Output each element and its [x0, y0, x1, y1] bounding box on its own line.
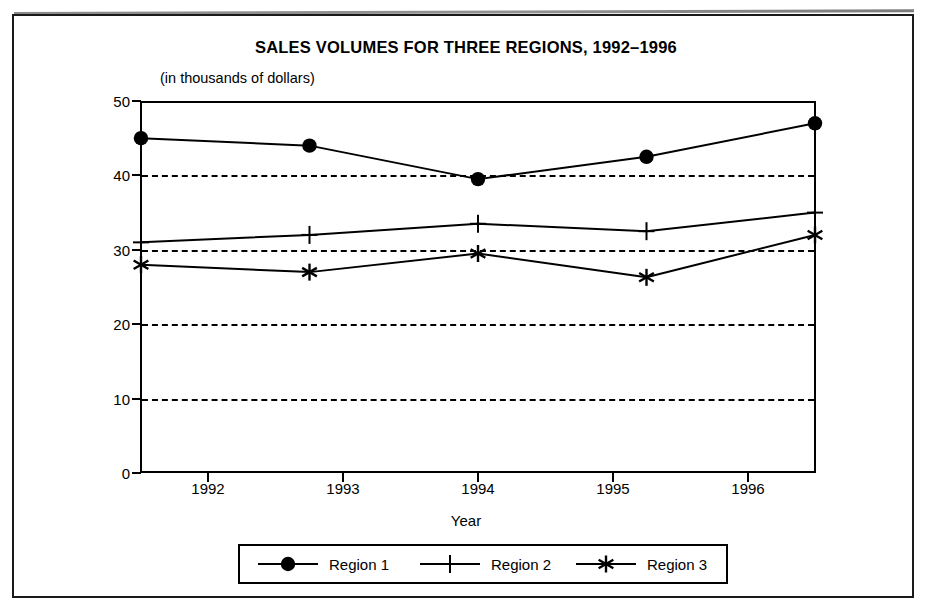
legend-marker-filled-circle-icon: [256, 554, 320, 574]
x-tick-label-1996: 1996: [731, 481, 764, 496]
chart-title: SALES VOLUMES FOR THREE REGIONS, 1992–19…: [0, 38, 932, 57]
data-point-region-1-1996: [808, 116, 822, 130]
y-tick-label-50: 50: [113, 94, 130, 109]
x-axis-title: Year: [0, 512, 932, 529]
x-axis-tick-labels: 19921993199419951996: [140, 481, 816, 503]
data-point-region-2-1995: [639, 222, 655, 240]
legend-label-3: Region 3: [647, 557, 707, 572]
data-series-layer: [140, 101, 816, 473]
x-tick-label-1993: 1993: [326, 481, 359, 496]
legend-label-1: Region 1: [329, 557, 389, 572]
y-tick-label-10: 10: [113, 392, 130, 407]
data-point-region-2-1993: [302, 226, 318, 244]
legend-item-2[interactable]: Region 2: [418, 546, 551, 582]
x-tick-label-1992: 1992: [191, 481, 224, 496]
chart-subtitle: (in thousands of dollars): [160, 70, 315, 86]
line-chart: SALES VOLUMES FOR THREE REGIONS, 1992–19…: [0, 0, 932, 616]
y-axis-tick-labels: 01020304050: [88, 101, 130, 473]
x-tick-label-1995: 1995: [596, 481, 629, 496]
legend-item-1[interactable]: Region 1: [256, 546, 389, 582]
data-point-region-1-1992: [134, 131, 148, 145]
legend-marker-asterisk-icon: [574, 554, 638, 574]
legend-marker-glyph: [281, 557, 295, 571]
series-line-1: [141, 123, 815, 179]
legend-label-2: Region 2: [491, 557, 551, 572]
data-point-region-1-1993: [302, 138, 316, 152]
legend-marker-plus-icon: [418, 554, 482, 574]
plot-area: [140, 101, 816, 473]
x-tick-label-1994: 1994: [461, 481, 494, 496]
y-tick-label-20: 20: [113, 317, 130, 332]
y-tick-label-40: 40: [113, 168, 130, 183]
data-point-region-2-1996: [807, 204, 823, 222]
data-point-region-1-1994: [471, 172, 485, 186]
data-point-region-3-1996: [808, 226, 823, 243]
y-tick-label-0: 0: [122, 466, 130, 481]
data-point-region-2-1994: [470, 215, 486, 233]
chart-legend: Region 1Region 2Region 3: [238, 544, 728, 584]
legend-item-3[interactable]: Region 3: [574, 546, 707, 582]
legend-marker-glyph: [442, 555, 458, 573]
data-point-region-1-1995: [639, 150, 653, 164]
y-tick-label-30: 30: [113, 243, 130, 258]
